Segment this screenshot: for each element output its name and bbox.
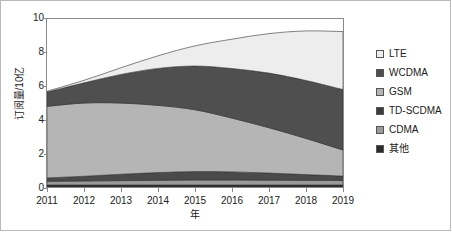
chart-figure: 订阅量/10亿 10 8 6 4 2 0 2011 2012 2013 2014… [0, 0, 452, 232]
x-tick-label-2013: 2013 [101, 195, 141, 206]
legend-label-gsm: GSM [389, 86, 412, 97]
legend-label-cdma: CDMA [389, 124, 418, 135]
x-tick-mark-2011 [47, 188, 48, 192]
x-tick-label-2016: 2016 [212, 195, 252, 206]
legend-swatch-other [376, 145, 384, 153]
chart-legend: LTE WCDMA GSM TD-SCDMA CDMA 其他 [376, 44, 450, 158]
x-tick-label-2012: 2012 [64, 195, 104, 206]
x-tick-mark-2019 [343, 188, 344, 192]
legend-swatch-wcdma [376, 69, 384, 77]
legend-item-td-scdma[interactable]: TD-SCDMA [376, 101, 450, 120]
legend-item-other[interactable]: 其他 [376, 139, 450, 158]
legend-swatch-cdma [376, 126, 384, 134]
legend-swatch-td-scdma [376, 107, 384, 115]
legend-item-cdma[interactable]: CDMA [376, 120, 450, 139]
x-tick-mark-2016 [232, 188, 233, 192]
legend-label-wcdma: WCDMA [389, 67, 428, 78]
legend-label-td-scdma: TD-SCDMA [389, 105, 442, 116]
x-tick-label-2011: 2011 [27, 195, 67, 206]
legend-item-gsm[interactable]: GSM [376, 82, 450, 101]
x-axis-title: 年 [46, 209, 344, 220]
legend-item-wcdma[interactable]: WCDMA [376, 63, 450, 82]
x-tick-mark-2012 [84, 188, 85, 192]
x-tick-mark-2018 [306, 188, 307, 192]
legend-label-lte: LTE [389, 48, 407, 59]
x-tick-mark-2017 [269, 188, 270, 192]
x-tick-label-2014: 2014 [138, 195, 178, 206]
x-tick-mark-2014 [158, 188, 159, 192]
x-tick-label-2015: 2015 [175, 195, 215, 206]
legend-swatch-gsm [376, 88, 384, 96]
legend-item-lte[interactable]: LTE [376, 44, 450, 63]
x-tick-mark-2015 [195, 188, 196, 192]
x-tick-label-2019: 2019 [323, 195, 363, 206]
x-tick-mark-2013 [121, 188, 122, 192]
x-tick-label-2018: 2018 [286, 195, 326, 206]
x-tick-label-2017: 2017 [249, 195, 289, 206]
legend-swatch-lte [376, 50, 384, 58]
legend-label-other: 其他 [389, 143, 409, 154]
